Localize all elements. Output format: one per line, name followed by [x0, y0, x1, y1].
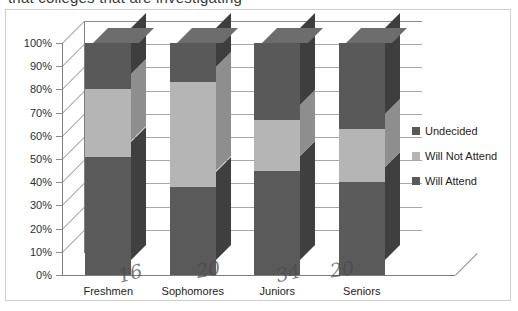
depth-connector-line	[62, 114, 85, 137]
legend-item-will-not-attend[interactable]: Will Not Attend	[412, 150, 508, 162]
depth-connector-line	[62, 137, 85, 160]
bar-segment-side	[300, 171, 315, 275]
bar-segment-face	[170, 82, 216, 186]
bar-segment-face	[339, 129, 385, 182]
legend-label-will-not-attend: Will Not Attend	[425, 150, 497, 162]
y-axis-tick-label: 90%	[8, 60, 52, 72]
bar-segment-face	[254, 43, 300, 120]
legend-swatch-will-attend	[412, 177, 420, 185]
bar-segment[interactable]	[339, 43, 385, 129]
back-wall-top-line	[84, 21, 422, 22]
x-axis-category-label: Sophomores	[148, 285, 238, 297]
y-axis-tick-label: 0%	[8, 269, 52, 281]
depth-connector-line	[62, 21, 85, 44]
bar-segment-side-face	[131, 13, 146, 74]
bar-segment-side	[131, 43, 146, 89]
bar-segment-face	[85, 157, 131, 275]
depth-connector-line	[62, 67, 85, 90]
bar-segment[interactable]	[170, 43, 216, 82]
legend-item-undecided[interactable]: Undecided	[412, 125, 508, 137]
bar-segment-face	[339, 43, 385, 129]
floor-right-edge	[455, 253, 478, 276]
y-axis-tick-label: 30%	[8, 199, 52, 211]
legend-label-will-attend: Will Attend	[425, 175, 477, 187]
depth-connector-line	[62, 230, 85, 253]
legend-swatch-will-not-attend	[412, 152, 420, 160]
y-axis-tick-label: 20%	[8, 223, 52, 235]
depth-connector-line	[62, 44, 85, 67]
x-axis-category-label: Freshmen	[63, 285, 153, 297]
bar-segment-side	[300, 120, 315, 171]
bar-segment-face	[85, 43, 131, 89]
bar-segment-side	[131, 89, 146, 156]
depth-connector-line	[62, 183, 85, 206]
chart-legend: Undecided Will Not Attend Will Attend	[412, 125, 508, 200]
handwritten-annotation: 20	[194, 256, 222, 282]
x-axis-category-label: Seniors	[317, 285, 407, 297]
bar-segment-face	[85, 89, 131, 156]
legend-label-undecided: Undecided	[425, 125, 478, 137]
bar-segment-face	[254, 171, 300, 275]
bar-segment[interactable]	[339, 129, 385, 182]
handwritten-annotation: 20	[329, 256, 356, 281]
bar-segment-side	[385, 182, 400, 275]
bar-segment[interactable]	[85, 89, 131, 156]
legend-item-will-attend[interactable]: Will Attend	[412, 175, 508, 187]
legend-swatch-undecided	[412, 127, 420, 135]
y-axis-tick-label: 50%	[8, 153, 52, 165]
bar-segment[interactable]	[85, 43, 131, 89]
y-axis-tick-label: 40%	[8, 176, 52, 188]
bar-segment[interactable]	[170, 82, 216, 186]
bar-segment-side	[385, 129, 400, 182]
y-axis-tick-label: 80%	[8, 83, 52, 95]
y-axis-tick-label: 70%	[8, 107, 52, 119]
bar-segment-face	[254, 120, 300, 171]
y-axis-line	[62, 43, 63, 276]
x-axis-category-label: Juniors	[232, 285, 322, 297]
bar-segment-side	[300, 43, 315, 120]
y-axis-tick-label: 10%	[8, 246, 52, 258]
bar-segment-side-face	[300, 13, 315, 105]
bar-segment-side	[385, 43, 400, 129]
bar-segment-side	[216, 82, 231, 186]
y-axis-tick-label: 100%	[8, 37, 52, 49]
depth-connector-line	[62, 207, 85, 230]
bar-segment[interactable]	[254, 171, 300, 275]
bar-segment-side	[216, 43, 231, 82]
bar-segment-face	[170, 43, 216, 82]
y-axis-tick-label: 60%	[8, 130, 52, 142]
bar-segment[interactable]	[85, 157, 131, 275]
bar-segment[interactable]	[254, 120, 300, 171]
bar-segment[interactable]	[254, 43, 300, 120]
bar-segment-side	[131, 157, 146, 275]
depth-connector-line	[62, 91, 85, 114]
depth-connector-line	[62, 160, 85, 183]
